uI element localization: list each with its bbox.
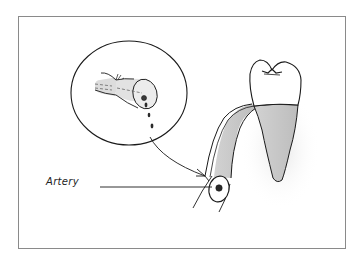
artery-lumen-icon xyxy=(216,185,222,191)
artery-label: Artery xyxy=(46,176,79,187)
drawing xyxy=(0,0,360,262)
pointer-arrow xyxy=(150,137,209,181)
artery-cross-section xyxy=(193,174,231,212)
inset-magnified-view xyxy=(71,41,187,145)
illustration: Artery xyxy=(0,0,360,262)
cut-vessel-icon xyxy=(95,73,160,112)
